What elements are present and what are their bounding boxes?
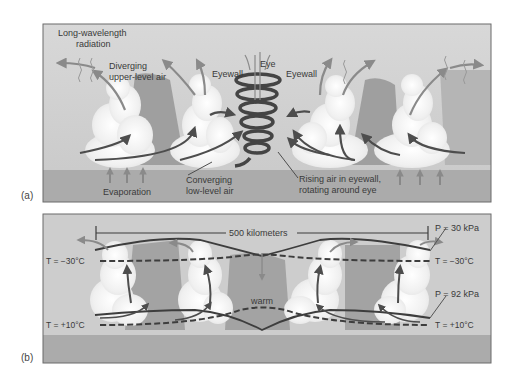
label-t-minus30-right: T = −30°C <box>435 256 474 266</box>
label-radiation-2: radiation <box>76 39 111 49</box>
label-diverging-1: Diverging <box>109 61 147 71</box>
label-scale: 500 kilometers <box>229 228 288 238</box>
panel-a-label: (a) <box>21 190 33 201</box>
label-t-plus10-left: T = +10°C <box>46 320 85 330</box>
label-rising-1: Rising air in eyewall, <box>299 174 381 184</box>
label-eye: Eye <box>260 59 276 69</box>
label-converging-1: Converging <box>186 175 232 185</box>
label-diverging-2: upper-level air <box>109 72 166 82</box>
label-converging-2: low-level air <box>186 186 234 196</box>
panel-a: Long-wavelength radiation Diverging uppe… <box>43 24 491 202</box>
panel-b-label: (b) <box>21 352 33 363</box>
label-eyewall-left: Eyewall <box>212 69 243 79</box>
label-t-plus10-right: T = +10°C <box>435 320 474 330</box>
hurricane-diagram: Long-wavelength radiation Diverging uppe… <box>0 0 512 388</box>
ocean <box>43 335 491 363</box>
label-p92: P = 92 kPa <box>435 289 479 299</box>
label-rising-2: rotating around eye <box>299 185 377 195</box>
label-warm: warm <box>250 296 273 306</box>
panel-b: 500 kilometers P = 30 kPa T = −30°C T = … <box>43 214 491 363</box>
label-evaporation: Evaporation <box>103 187 151 197</box>
label-eyewall-right: Eyewall <box>286 69 317 79</box>
label-radiation-1: Long-wavelength <box>58 28 127 38</box>
label-t-minus30-left: T = −30°C <box>46 256 85 266</box>
label-p30: P = 30 kPa <box>435 223 479 233</box>
